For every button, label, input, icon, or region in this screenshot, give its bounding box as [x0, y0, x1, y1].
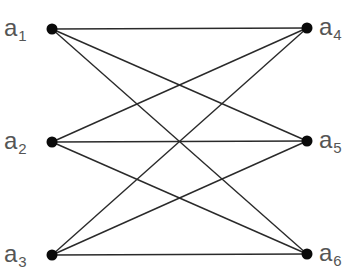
edge-a3-a6 — [52, 254, 307, 255]
label-a1: a1 — [4, 14, 27, 44]
label-a4: a4 — [319, 13, 342, 43]
edges-group — [52, 28, 307, 255]
edge-a1-a4 — [52, 28, 307, 29]
node-a5 — [302, 136, 313, 147]
label-main: a — [319, 239, 333, 266]
node-a6 — [302, 249, 313, 260]
node-a2 — [47, 137, 58, 148]
label-a2: a2 — [4, 127, 27, 157]
label-subscript: 2 — [18, 140, 26, 157]
label-a5: a5 — [319, 126, 342, 156]
bipartite-graph: a1a2a3a4a5a6 — [0, 0, 351, 280]
label-a3: a3 — [4, 240, 27, 270]
label-main: a — [319, 13, 333, 40]
node-a3 — [47, 250, 58, 261]
label-subscript: 1 — [18, 27, 26, 44]
label-main: a — [4, 127, 18, 154]
label-subscript: 3 — [18, 253, 26, 270]
label-main: a — [319, 126, 333, 153]
label-subscript: 4 — [333, 26, 341, 43]
label-main: a — [4, 240, 18, 267]
node-a1 — [47, 24, 58, 35]
node-a4 — [302, 23, 313, 34]
label-main: a — [4, 14, 18, 41]
label-subscript: 6 — [333, 252, 341, 269]
label-subscript: 5 — [333, 139, 341, 156]
label-a6: a6 — [319, 239, 342, 269]
